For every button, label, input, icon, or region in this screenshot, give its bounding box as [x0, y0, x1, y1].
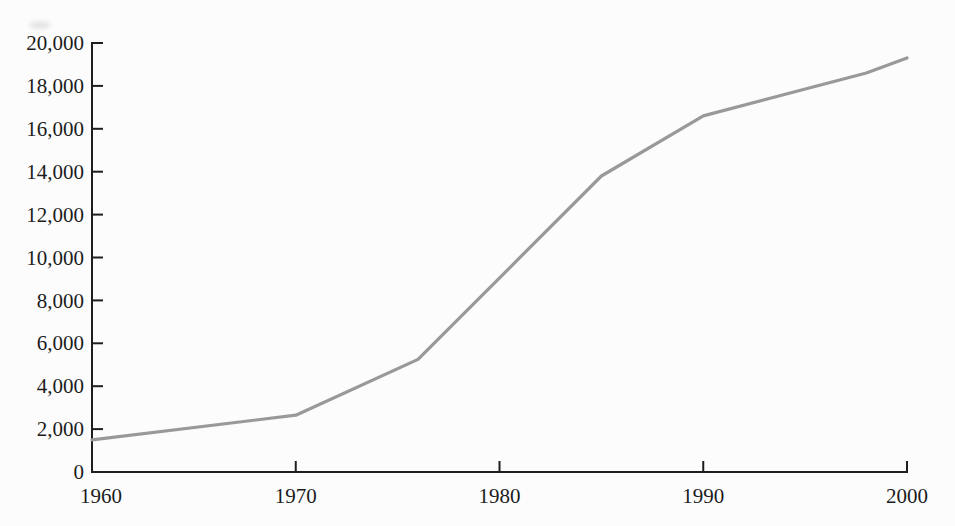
axis-ticks	[92, 43, 907, 472]
axis-spine	[92, 43, 907, 472]
axis-tick-labels: 02,0004,0006,0008,00010,00012,00014,0001…	[26, 31, 928, 508]
scan-smudge	[29, 21, 51, 29]
y-tick-label: 4,000	[37, 374, 84, 398]
y-tick-label: 18,000	[26, 74, 84, 98]
y-tick-label: 6,000	[37, 331, 84, 355]
data-line	[92, 58, 907, 440]
y-tick-label: 8,000	[37, 289, 84, 313]
y-tick-label: 0	[74, 460, 85, 484]
y-tick-label: 16,000	[26, 117, 84, 141]
data-series	[92, 58, 907, 440]
line-chart: 02,0004,0006,0008,00010,00012,00014,0001…	[0, 0, 955, 526]
y-tick-label: 10,000	[26, 246, 84, 270]
y-tick-label: 2,000	[37, 417, 84, 441]
y-tick-label: 12,000	[26, 203, 84, 227]
x-tick-label: 2000	[886, 484, 928, 508]
chart-canvas: 02,0004,0006,0008,00010,00012,00014,0001…	[0, 0, 955, 526]
x-tick-label: 1970	[275, 484, 317, 508]
x-tick-label: 1990	[682, 484, 724, 508]
x-tick-label: 1980	[479, 484, 521, 508]
y-tick-label: 20,000	[26, 31, 84, 55]
axes	[92, 43, 907, 472]
y-tick-label: 14,000	[26, 160, 84, 184]
x-tick-label: 1960	[80, 484, 122, 508]
